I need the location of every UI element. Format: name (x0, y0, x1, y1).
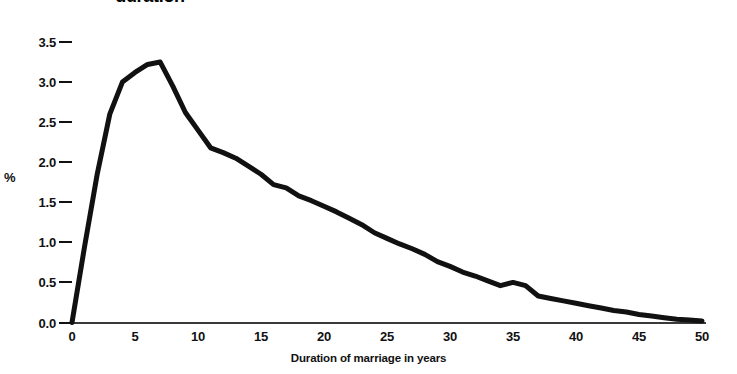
y-tick-label: 3.0 (14, 75, 56, 90)
x-tick-label: 50 (682, 329, 722, 344)
y-tick-label: 2.5 (14, 115, 56, 130)
x-tick-label: 0 (52, 329, 92, 344)
chart-title: duration (0, 0, 300, 7)
y-tick-mark (59, 81, 72, 83)
y-tick-label: 3.5 (14, 35, 56, 50)
data-series-line (72, 62, 702, 322)
y-tick-mark (59, 201, 72, 203)
x-tick-label: 20 (304, 329, 344, 344)
y-tick-mark (59, 121, 72, 123)
y-tick-mark (59, 281, 72, 283)
x-tick-label: 25 (367, 329, 407, 344)
x-tick-label: 30 (430, 329, 470, 344)
x-tick-label: 10 (178, 329, 218, 344)
y-tick-mark (59, 322, 72, 324)
y-tick-mark (59, 41, 72, 43)
y-tick-label: 1.5 (14, 195, 56, 210)
x-tick-label: 35 (493, 329, 533, 344)
x-tick-label: 40 (556, 329, 596, 344)
x-tick-label: 15 (241, 329, 281, 344)
y-axis-label: % (4, 170, 16, 185)
y-tick-mark (59, 241, 72, 243)
chart-figure: duration % 0.00.51.01.52.02.53.03.5 0510… (0, 0, 737, 374)
x-axis-label: Duration of marriage in years (0, 352, 737, 364)
y-tick-label: 0.0 (14, 315, 56, 330)
y-tick-label: 0.5 (14, 275, 56, 290)
y-tick-label: 2.0 (14, 155, 56, 170)
y-tick-mark (59, 161, 72, 163)
x-tick-label: 5 (115, 329, 155, 344)
chart-plot-svg (0, 0, 737, 374)
x-axis-baseline (72, 322, 706, 324)
y-tick-label: 1.0 (14, 235, 56, 250)
x-tick-label: 45 (619, 329, 659, 344)
